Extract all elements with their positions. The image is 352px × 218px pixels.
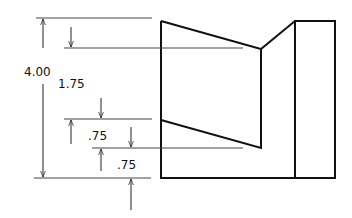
technical-drawing: 4.00 1.75 .75 .75 [0, 0, 352, 218]
dimension-label-lower-75: .75 [117, 158, 136, 172]
object-outline [161, 21, 335, 178]
dimension-label-4-00: 4.00 [24, 65, 51, 79]
drawing-canvas: 4.00 1.75 .75 .75 [0, 0, 352, 218]
dimension-1-75 [71, 27, 101, 118]
dimension-label-middle-75: .75 [88, 129, 107, 143]
extension-lines [34, 18, 243, 178]
dimension-label-1-75: 1.75 [58, 77, 85, 91]
